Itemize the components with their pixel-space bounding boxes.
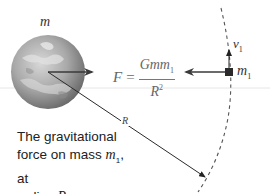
- orbiting-mass-label: m1: [237, 63, 251, 81]
- mass-symbol: m: [237, 63, 247, 78]
- formula-numerator: Gmm1: [139, 57, 175, 80]
- square-mass-icon: [225, 68, 233, 76]
- denominator-superscript: 2: [159, 83, 163, 92]
- formula-denominator: R2: [151, 80, 164, 99]
- formula-lhs: F: [113, 69, 122, 86]
- caption-line-3-prefix: radius: [17, 189, 58, 194]
- planet-mass-label: m: [40, 14, 50, 30]
- numerator-subscript: 1: [170, 66, 174, 75]
- formula-fraction: Gmm1 R2: [139, 57, 175, 98]
- caption-line-2-prefix: force on mass: [17, 147, 106, 162]
- orbit-arc: [198, 8, 231, 192]
- gravity-formula: F = Gmm1 R2: [113, 57, 175, 98]
- radius-label: R: [121, 115, 129, 126]
- velocity-subscript: 1: [239, 45, 243, 54]
- caption-radius-var: R: [58, 189, 67, 194]
- caption-line-1: The gravitational: [17, 128, 137, 146]
- mass-subscript: 1: [247, 72, 251, 81]
- velocity-label: v1: [233, 36, 243, 54]
- gravitation-diagram: m F = Gmm1 R2 v1 m1 R The gravitational …: [0, 0, 270, 194]
- figure-caption: The gravitational force on mass m1, at r…: [17, 128, 137, 194]
- caption-line-2: force on mass m1, at: [17, 146, 137, 188]
- caption-line-3: radius R: [17, 188, 137, 194]
- formula-equals: =: [126, 69, 134, 86]
- denominator-text: R: [151, 83, 160, 98]
- numerator-text: Gmm: [140, 57, 170, 72]
- caption-mass-var: m: [106, 147, 116, 162]
